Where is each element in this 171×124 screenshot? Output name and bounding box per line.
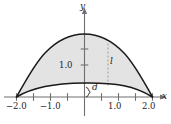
x-axis-label: x: [162, 92, 167, 101]
y-axis-label: y: [80, 2, 85, 11]
annotation-label-l: l: [110, 57, 113, 66]
annotation-label-d: d: [92, 83, 98, 92]
x-tick-label-1-0: 1.0: [108, 102, 122, 111]
y-tick-label-1-0: 1.0: [59, 61, 73, 70]
brace-d: [87, 87, 91, 97]
x-tick-label-2-0: 2.0: [142, 102, 156, 111]
figure-container: −2.0 −1.0 1.0 2.0 1.0 x y d l: [0, 0, 171, 124]
x-tick-label--2-0: −2.0: [6, 102, 27, 111]
x-tick-label--1-0: −1.0: [40, 102, 61, 111]
